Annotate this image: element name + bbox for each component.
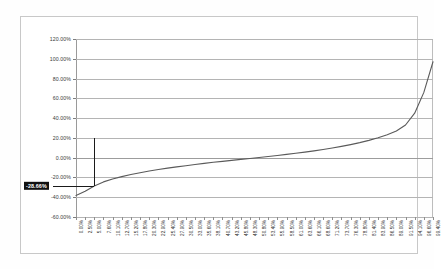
x-axis-tick-mark [351,217,352,220]
x-axis-tick-mark [360,217,361,220]
x-axis-tick-mark [186,217,187,220]
x-axis-tick-mark [149,217,150,220]
x-axis-tick-mark [332,217,333,220]
data-series-line [76,39,433,217]
x-axis-tick-label: 0.00% [79,220,84,233]
x-axis-tick-mark [204,217,205,220]
x-axis-tick-label: 76.30% [354,220,359,236]
x-axis-tick-label: 33.00% [198,220,203,236]
x-axis-tick-label: 27.90% [180,220,185,236]
x-axis-tick-mark [250,217,251,220]
x-axis-tick-mark [268,217,269,220]
x-axis-tick-label: 12.70% [125,220,130,236]
y-axis-tick-label: 120.00% [50,36,71,42]
x-axis-tick-label: 40.70% [226,220,231,236]
x-axis-tick-mark [424,217,425,220]
x-axis-tick-label: 55.90% [280,220,285,236]
highlighted-value-label[interactable]: -28.66% [24,182,49,190]
x-axis-tick-labels: 0.00%2.50%5.00%7.60%10.10%12.70%15.20%17… [76,217,433,269]
x-axis-tick-mark [131,217,132,220]
x-axis-tick-label: 73.70% [345,220,350,236]
x-axis-tick-label: 63.60% [308,220,313,236]
x-axis-tick-label: 58.50% [290,220,295,236]
x-axis-tick-mark [232,217,233,220]
x-axis-tick-label: 10.10% [116,220,121,236]
x-axis-tick-label: 22.90% [161,220,166,236]
x-axis-tick-label: 94.10% [418,220,423,236]
x-axis-tick-mark [177,217,178,220]
x-axis-tick-mark [94,217,95,220]
x-axis-tick-mark [396,217,397,220]
x-axis-tick-mark [113,217,114,220]
y-axis-tick-label: -40.00% [51,194,71,200]
x-axis-tick-label: 83.90% [381,220,386,236]
x-axis-tick-mark [323,217,324,220]
x-axis-tick-mark [103,217,104,220]
x-axis-tick-label: 5.00% [97,220,102,233]
y-axis-tick-label: 60.00% [53,95,71,101]
x-axis-tick-label: 2.50% [88,220,93,233]
annotation-leader-line-horizontal [53,186,94,187]
x-axis-tick-label: 53.40% [271,220,276,236]
x-axis-tick-mark [433,217,434,220]
annotation-leader-line-vertical [94,138,95,186]
chart-frame: 120.00%100.00%80.00%60.00%40.00%20.00%0.… [20,16,418,254]
x-axis-tick-label: 7.60% [107,220,112,233]
y-axis-tick-label: 40.00% [53,115,71,121]
x-axis-tick-mark [314,217,315,220]
x-axis-tick-mark [140,217,141,220]
x-axis-tick-label: 17.80% [143,220,148,236]
y-axis-tick-label: 100.00% [50,56,71,62]
x-axis-tick-label: 81.40% [372,220,377,236]
x-axis-tick-mark [341,217,342,220]
x-axis-tick-mark [305,217,306,220]
x-axis-tick-mark [122,217,123,220]
plot-area: 120.00%100.00%80.00%60.00%40.00%20.00%0.… [76,39,433,217]
x-axis-tick-label: 96.60% [427,220,432,236]
x-axis-tick-mark [222,217,223,220]
x-axis-tick-mark [259,217,260,220]
x-axis-tick-mark [85,217,86,220]
x-axis-tick-mark [158,217,159,220]
x-axis-tick-label: 48.30% [253,220,258,236]
x-axis-tick-label: 66.10% [317,220,322,236]
y-axis-tick-label: 20.00% [53,135,71,141]
x-axis-tick-mark [369,217,370,220]
y-axis-tick-label: 80.00% [53,76,71,82]
x-axis-tick-label: 71.20% [335,220,340,236]
x-axis-tick-mark [387,217,388,220]
x-axis-tick-mark [76,217,77,220]
x-axis-tick-mark [213,217,214,220]
x-axis-tick-mark [296,217,297,220]
x-axis-tick-mark [168,217,169,220]
x-axis-tick-label: 45.80% [244,220,249,236]
x-axis-tick-label: 99.40% [436,220,441,236]
x-axis-tick-mark [241,217,242,220]
x-axis-tick-label: 35.60% [207,220,212,236]
x-axis-tick-label: 61.00% [299,220,304,236]
y-axis-tick-label: -20.00% [51,174,71,180]
x-axis-tick-label: 38.10% [216,220,221,236]
x-axis-tick-label: 86.50% [390,220,395,236]
x-axis-tick-mark [195,217,196,220]
x-axis-tick-label: 78.80% [363,220,368,236]
x-axis-tick-label: 30.50% [189,220,194,236]
x-axis-tick-label: 89.00% [399,220,404,236]
x-axis-tick-label: 68.60% [326,220,331,236]
x-axis-tick-mark [277,217,278,220]
x-axis-tick-label: 50.80% [262,220,267,236]
x-axis-tick-label: 91.50% [409,220,414,236]
y-axis-tick-label: -60.00% [51,214,71,220]
x-axis-tick-mark [415,217,416,220]
y-axis-tick-label: 0.00% [56,155,71,161]
x-axis-tick-label: 15.20% [134,220,139,236]
x-axis-tick-label: 43.20% [235,220,240,236]
x-axis-tick-label: 25.40% [171,220,176,236]
x-axis-tick-mark [378,217,379,220]
x-axis-tick-mark [406,217,407,220]
x-axis-tick-mark [287,217,288,220]
x-axis-tick-label: 20.30% [152,220,157,236]
